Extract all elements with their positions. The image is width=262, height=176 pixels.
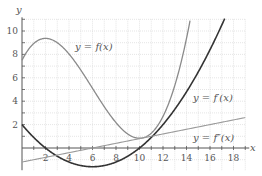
y-tick-label: 6	[12, 73, 18, 83]
function-derivative-chart: 24681012141618246810 y x y = f(x) y = f′…	[0, 0, 262, 176]
x-axis-label: x	[250, 142, 256, 153]
x-tick-label: 16	[204, 153, 216, 163]
x-tick-label: 10	[134, 153, 146, 163]
f-label: y = f(x)	[74, 41, 113, 52]
x-tick-label: 12	[157, 153, 168, 163]
x-tick-label: 6	[90, 153, 96, 163]
y-axis-label: y	[15, 4, 22, 15]
x-tick-label: 18	[228, 153, 240, 163]
y-tick-label: 2	[12, 120, 18, 130]
fprime-label: y = f′(x)	[192, 92, 233, 103]
y-tick-label: 10	[7, 26, 19, 36]
f-curve	[22, 21, 190, 139]
x-tick-label: 14	[181, 153, 193, 163]
y-tick-label: 4	[12, 96, 18, 106]
fdprime-label: y = f″(x)	[192, 132, 234, 143]
y-tick-label: 8	[12, 49, 18, 59]
